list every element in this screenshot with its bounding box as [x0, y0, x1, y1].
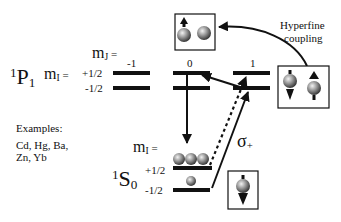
examples-title: Examples:	[16, 123, 62, 134]
mJ-label: mJ =	[92, 45, 117, 62]
lower-term-label: 1S0	[112, 168, 137, 191]
sigma-plus-dashed-arrow	[210, 77, 246, 165]
spin-box-top	[175, 14, 215, 50]
lower-mI-minus: -1/2	[145, 185, 163, 196]
level-mJ-0-minus	[173, 86, 210, 90]
spin-box-bottom	[228, 171, 258, 209]
upper-mI-plus: +1/2	[82, 68, 102, 79]
coupling-transfer-arrow	[202, 75, 240, 87]
level-mJ-0-plus	[173, 71, 210, 75]
lower-mI-plus: +1/2	[145, 165, 165, 176]
hyperfine-label-line2: coupling	[284, 33, 323, 44]
lower-mI-label: mI =	[133, 139, 158, 156]
examples-line2: Zn, Yb	[16, 152, 47, 163]
upper-mI-minus: -1/2	[85, 83, 103, 94]
upper-term-label: 1P1	[10, 66, 35, 89]
mJ-value-0: 0	[187, 58, 193, 69]
upper-mI-label: mI =	[44, 66, 69, 83]
level-ground-minus	[173, 188, 210, 192]
examples-line1: Cd, Hg, Ba,	[16, 140, 68, 151]
level-mJ-minus1-minus	[113, 86, 150, 90]
mJ-value-1: 1	[250, 58, 256, 69]
upper-levels	[113, 71, 270, 90]
sigma-plus-label: σ+	[237, 132, 253, 151]
spin-box-right	[278, 66, 329, 108]
mJ-value-minus1: -1	[127, 58, 136, 69]
level-mJ-minus1-plus	[113, 71, 150, 75]
level-mJ-1-plus	[233, 71, 270, 75]
level-ground-plus	[173, 166, 212, 170]
hyperfine-label-line1: Hyperfine	[280, 20, 325, 31]
